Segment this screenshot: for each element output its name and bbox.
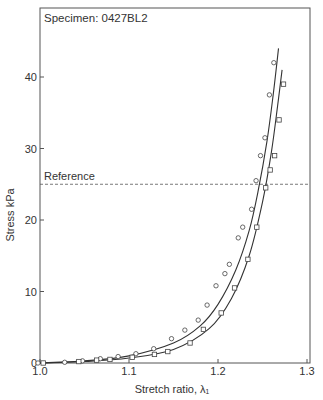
data-point-circle [205, 303, 209, 307]
data-point-square [41, 361, 45, 365]
data-point-square [264, 186, 268, 190]
data-point-circle [183, 328, 187, 332]
data-point-square [94, 358, 98, 362]
data-point-square [272, 153, 276, 157]
fit-curve-squares [40, 70, 282, 363]
data-point-square [130, 355, 134, 359]
data-point-square [201, 327, 205, 331]
x-tick-label: 1.2 [210, 365, 225, 377]
fit-curves [40, 48, 282, 363]
data-markers [36, 61, 286, 366]
data-point-circle [249, 207, 253, 211]
stress-stretch-chart: Specimen: 0427BL2 010203040 1.01.11.21.3… [0, 0, 323, 400]
x-axis-label: Stretch ratio, λ₁ [135, 383, 210, 395]
data-point-circle [116, 354, 120, 358]
data-point-square [246, 257, 250, 261]
data-point-circle [62, 360, 66, 364]
data-point-circle [214, 284, 218, 288]
data-point-circle [227, 262, 231, 266]
data-point-square [281, 82, 285, 86]
y-tick-label: 20 [25, 214, 37, 226]
reference-label: Reference [44, 170, 95, 182]
chart-title: Specimen: 0427BL2 [44, 12, 148, 24]
data-point-square [108, 357, 112, 361]
x-tick-label: 1.1 [121, 365, 136, 377]
data-point-circle [263, 136, 267, 140]
data-point-circle [196, 318, 200, 322]
y-axis: 010203040 [25, 71, 44, 369]
data-point-square [166, 349, 170, 353]
data-point-square [219, 311, 223, 315]
data-point-circle [152, 347, 156, 351]
data-point-square [277, 118, 281, 122]
data-point-circle [258, 153, 262, 157]
data-point-square [152, 352, 156, 356]
y-tick-label: 10 [25, 286, 37, 298]
y-tick-label: 30 [25, 143, 37, 155]
data-point-square [188, 341, 192, 345]
fit-curve-circles [40, 48, 279, 363]
data-point-circle [223, 271, 227, 275]
data-point-circle [267, 93, 271, 97]
x-tick-label: 1.3 [299, 365, 314, 377]
plot-frame [40, 8, 310, 363]
y-tick-label: 40 [25, 71, 37, 83]
data-point-circle [36, 361, 40, 365]
data-point-circle [236, 236, 240, 240]
y-axis-label: Stress kPa [4, 188, 16, 242]
x-tick-label: 1.0 [32, 365, 47, 377]
data-point-square [77, 359, 81, 363]
data-point-circle [272, 61, 276, 65]
data-point-circle [169, 336, 173, 340]
data-point-circle [254, 178, 258, 182]
data-point-square [268, 168, 272, 172]
data-point-square [232, 286, 236, 290]
data-point-square [255, 225, 259, 229]
data-point-circle [241, 225, 245, 229]
